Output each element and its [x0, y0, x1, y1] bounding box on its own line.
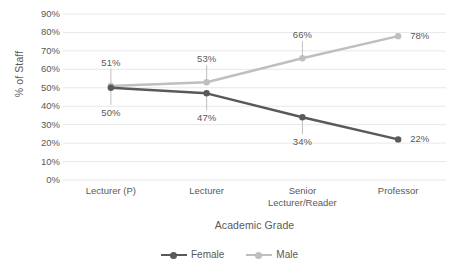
legend-item-female[interactable]: Female — [161, 249, 224, 260]
legend-marker-icon — [255, 252, 262, 259]
x-axis-tick-label: Professor — [350, 185, 446, 197]
legend-item-male[interactable]: Male — [246, 249, 298, 260]
legend-key-icon — [246, 250, 272, 260]
legend-key-icon — [161, 250, 187, 260]
chart-legend: FemaleMale — [0, 249, 459, 260]
x-axis-tick-label: Lecturer — [159, 185, 255, 197]
legend-label: Male — [276, 249, 298, 260]
legend-label: Female — [191, 249, 224, 260]
x-axis-tick-label: Senior Lecturer/Reader — [254, 185, 350, 209]
x-axis-tick-label: Lecturer (P) — [63, 185, 159, 197]
x-axis-title: Academic Grade — [63, 219, 446, 231]
x-axis-tick-labels: Lecturer (P)LecturerSenior Lecturer/Read… — [0, 0, 459, 276]
legend-marker-icon — [170, 252, 177, 259]
line-chart: % of Staff 90%80%70%60%50%40%30%20%10%0%… — [0, 0, 459, 276]
